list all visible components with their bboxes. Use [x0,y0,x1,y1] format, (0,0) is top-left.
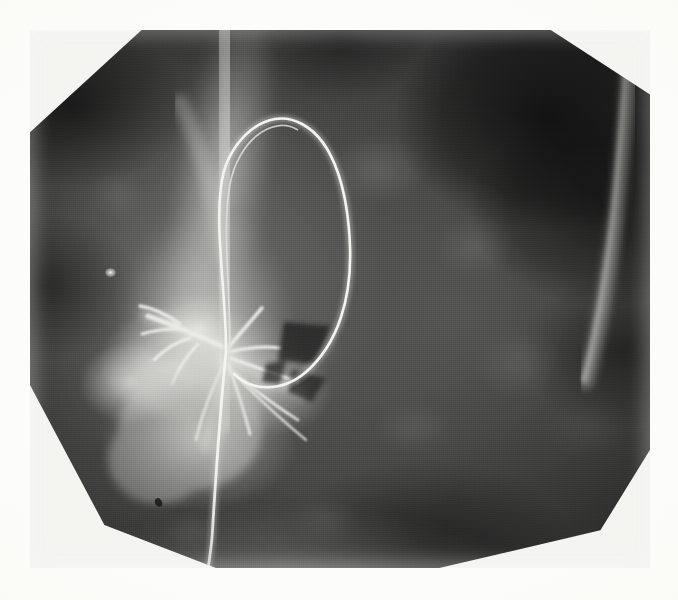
collimated-xray-field [30,30,650,568]
radiograph-plate [30,30,650,568]
radiograph-page [0,0,678,600]
calcific-density-marker [105,268,116,277]
diaphragm-shadow-layer [30,30,650,568]
